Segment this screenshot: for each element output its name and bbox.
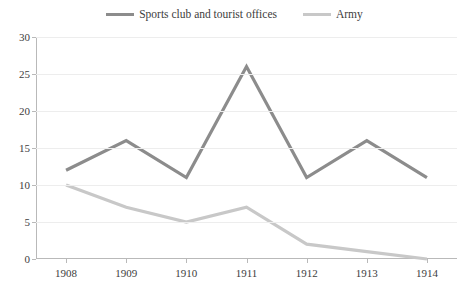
x-tick-label: 1914 [416, 268, 438, 279]
y-tick-label: 15 [19, 143, 30, 154]
y-tick-mark [32, 259, 36, 260]
y-tick-mark [32, 74, 36, 75]
x-tick-label: 1908 [55, 268, 77, 279]
y-tick-label: 25 [19, 69, 30, 80]
y-axis-tick-labels: 051015202530 [0, 37, 30, 259]
series-line-sports-club-and-tourist-offices [66, 67, 427, 178]
gridline [36, 148, 457, 149]
y-tick-label: 5 [25, 217, 31, 228]
chart-legend: Sports club and tourist officesArmy [0, 4, 469, 24]
legend-color-swatch [303, 13, 331, 16]
x-tick-mark [307, 259, 308, 263]
x-tick-mark [66, 259, 67, 263]
y-tick-label: 0 [25, 254, 31, 265]
y-tick-label: 30 [19, 32, 30, 43]
y-tick-mark [32, 222, 36, 223]
gridline [36, 222, 457, 223]
legend-color-swatch [106, 13, 134, 16]
x-tick-label: 1909 [115, 268, 137, 279]
x-tick-mark [427, 259, 428, 263]
x-tick-label: 1911 [236, 268, 258, 279]
y-tick-mark [32, 185, 36, 186]
x-tick-label: 1912 [296, 268, 318, 279]
y-tick-mark [32, 37, 36, 38]
plot-area [36, 37, 457, 259]
x-tick-mark [126, 259, 127, 263]
line-chart: Sports club and tourist officesArmy 0510… [0, 0, 469, 290]
legend-item[interactable]: Army [303, 8, 363, 20]
x-axis-tick-labels: 1908190919101911191219131914 [36, 268, 457, 282]
y-tick-label: 20 [19, 106, 30, 117]
x-tick-label: 1910 [175, 268, 197, 279]
gridline [36, 111, 457, 112]
x-tick-mark [247, 259, 248, 263]
x-tick-mark [367, 259, 368, 263]
legend-label: Sports club and tourist offices [139, 8, 277, 20]
x-tick-label: 1913 [356, 268, 378, 279]
gridline [36, 37, 457, 38]
legend-item[interactable]: Sports club and tourist offices [106, 8, 277, 20]
y-tick-mark [32, 148, 36, 149]
x-tick-mark [186, 259, 187, 263]
gridline [36, 74, 457, 75]
y-tick-mark [32, 111, 36, 112]
y-tick-label: 10 [19, 180, 30, 191]
gridline [36, 185, 457, 186]
legend-label: Army [336, 8, 363, 20]
